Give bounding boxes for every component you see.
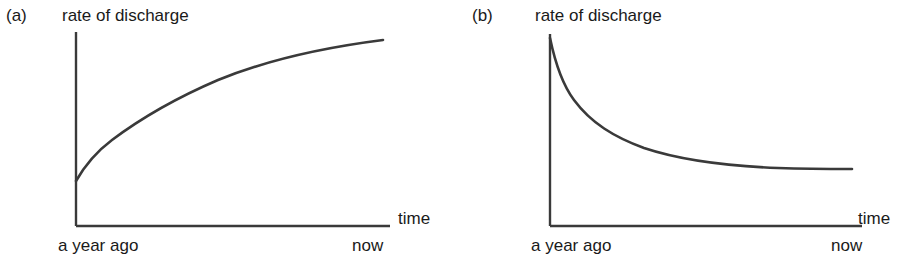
chart-a-x-axis-title: time	[398, 209, 430, 229]
chart-a-x-tick-left: a year ago	[58, 236, 138, 256]
chart-b-plot	[458, 0, 916, 273]
panel-tag-a: (a)	[6, 6, 27, 26]
chart-a-data-curve	[76, 40, 383, 181]
chart-b-x-tick-right: now	[831, 236, 862, 256]
chart-b-data-curve	[550, 38, 852, 169]
chart-b-y-axis-title: rate of discharge	[535, 6, 662, 26]
chart-panel-b: (b) rate of discharge time a year ago no…	[458, 0, 916, 273]
chart-panel-a: (a) rate of discharge time a year ago no…	[0, 0, 458, 273]
chart-a-x-tick-right: now	[352, 236, 383, 256]
chart-a-y-axis-title: rate of discharge	[62, 6, 189, 26]
panel-tag-b: (b)	[472, 6, 493, 26]
chart-b-x-axis-title: time	[858, 209, 890, 229]
chart-b-x-tick-left: a year ago	[531, 236, 611, 256]
figure-root: (a) rate of discharge time a year ago no…	[0, 0, 916, 273]
chart-a-plot	[0, 0, 458, 273]
